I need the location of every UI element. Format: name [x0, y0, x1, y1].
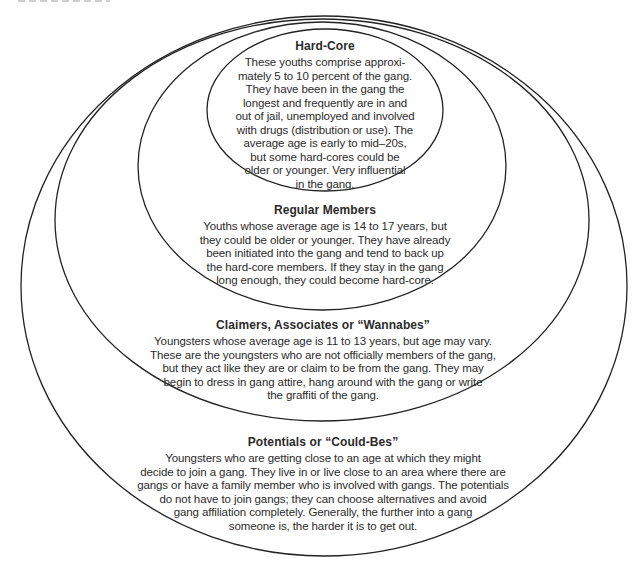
gang-membership-ellipse-diagram: Hard-Core These youths comprise approxi-…	[0, 0, 643, 562]
potentials-title: Potentials or “Could-Bes”	[137, 435, 509, 449]
level-potentials: Potentials or “Could-Bes” Youngsters who…	[137, 435, 509, 533]
level-hard-core: Hard-Core These youths comprise approxi-…	[235, 39, 414, 191]
claimers-description: Youngsters whose average age is 11 to 13…	[150, 335, 496, 403]
hard-core-description: These youths comprise approxi- mately 5 …	[235, 56, 414, 191]
level-regular-members: Regular Members Youths whose average age…	[200, 203, 451, 288]
regular-members-description: Youths whose average age is 14 to 17 yea…	[200, 220, 451, 288]
potentials-description: Youngsters who are getting close to an a…	[137, 452, 509, 533]
claimers-title: Claimers, Associates or “Wannabes”	[150, 318, 496, 332]
regular-members-title: Regular Members	[200, 203, 451, 217]
hard-core-title: Hard-Core	[235, 39, 414, 53]
level-claimers: Claimers, Associates or “Wannabes” Young…	[150, 318, 496, 403]
